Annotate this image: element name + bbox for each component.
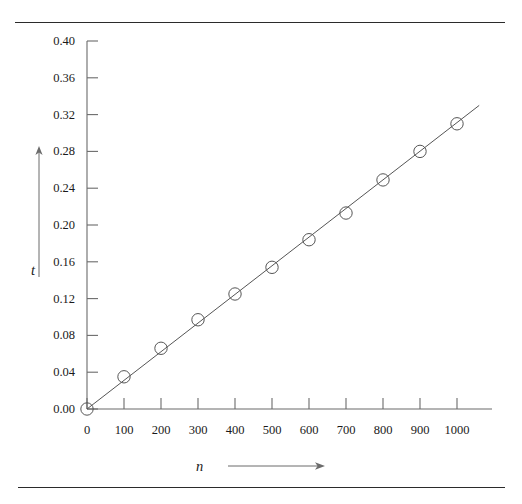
y-axis-tick-label: 0.00 — [31, 403, 75, 416]
x-axis-label: n — [196, 459, 203, 474]
y-axis-ticks — [87, 41, 98, 409]
x-axis-ticks — [87, 398, 457, 409]
data-point-marker — [303, 234, 315, 246]
data-point-marker — [266, 261, 278, 273]
y-axis-tick-label: 0.08 — [31, 329, 75, 342]
x-axis-tick-label: 1000 — [434, 424, 480, 437]
y-axis-tick-label: 0.40 — [31, 35, 75, 48]
x-axis-direction-arrow — [228, 462, 325, 470]
y-axis-tick-label: 0.36 — [31, 72, 75, 85]
y-axis-tick-label: 0.04 — [31, 366, 75, 379]
y-axis-tick-label: 0.32 — [31, 109, 75, 122]
data-point-marker — [451, 118, 463, 130]
fit-line — [87, 105, 479, 409]
y-axis-tick-label: 0.24 — [31, 182, 75, 195]
y-axis-tick-label: 0.12 — [31, 293, 75, 306]
y-axis-tick-label: 0.28 — [31, 145, 75, 158]
y-axis-label: t — [31, 263, 35, 278]
trend-line — [87, 105, 479, 409]
y-axis-tick-label: 0.20 — [31, 219, 75, 232]
axes-group — [87, 41, 492, 409]
figure-panel: 0.000.040.080.120.160.200.240.280.320.36… — [0, 0, 522, 504]
y-axis-tick-label: 0.16 — [31, 256, 75, 269]
